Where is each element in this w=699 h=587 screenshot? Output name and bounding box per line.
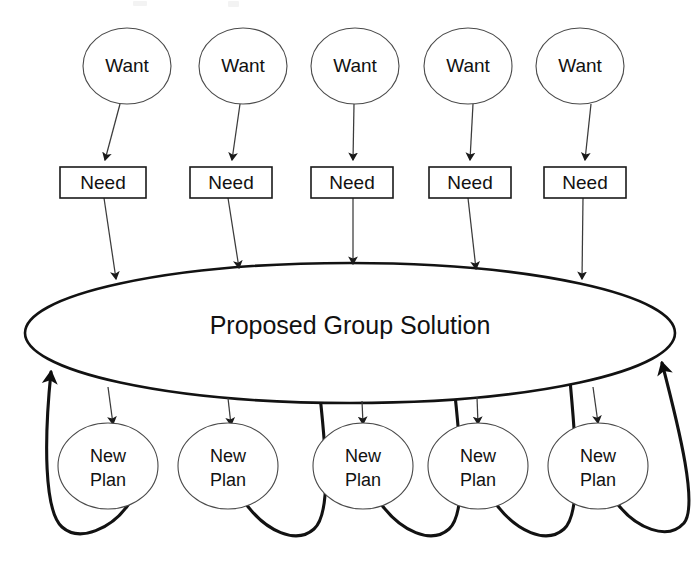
need-node-3[interactable]: Need [311, 167, 393, 198]
need-node-4[interactable]: Need [429, 167, 511, 198]
new-plan-label-3-line1: New [345, 446, 382, 466]
edge-want-need-4 [470, 104, 473, 160]
new-plan-label-1-line1: New [90, 446, 127, 466]
need-label-4: Need [447, 172, 492, 193]
new-plan-label-5-line2: Plan [580, 470, 616, 490]
want-node-3[interactable]: Want [311, 28, 399, 104]
edge-want-need-3 [353, 104, 354, 160]
edge-solution-plan-3 [362, 401, 363, 424]
need-label-5: Need [562, 172, 607, 193]
new-plan-label-4-line2: Plan [460, 470, 496, 490]
need-node-2[interactable]: Need [190, 167, 272, 198]
edge-solution-plan-5 [593, 387, 598, 423]
new-plan-ellipse-1 [58, 423, 158, 509]
edge-want-need-5 [585, 104, 591, 160]
new-plan-node-4[interactable]: New Plan [428, 423, 528, 509]
new-plan-ellipse-4 [428, 423, 528, 509]
want-label-5: Want [558, 55, 602, 76]
new-plan-label-4-line1: New [460, 446, 497, 466]
new-plan-node-2[interactable]: New Plan [178, 423, 278, 509]
new-plan-node-3[interactable]: New Plan [313, 423, 413, 509]
new-plan-node-5[interactable]: New Plan [548, 423, 648, 509]
edge-solution-plan-2 [228, 398, 231, 425]
want-nodes-group: Want Want Want Want Want [83, 28, 624, 104]
want-to-need-edges [105, 104, 591, 160]
new-plan-label-2-line2: Plan [210, 470, 246, 490]
edge-want-need-1 [105, 104, 120, 160]
scan-artifact-left [133, 1, 147, 6]
new-plan-node-1[interactable]: New Plan [58, 423, 158, 509]
new-plan-ellipse-3 [313, 423, 413, 509]
proposed-group-solution-label: Proposed Group Solution [210, 311, 491, 339]
edge-want-need-2 [232, 104, 240, 160]
edge-need-solution-1 [104, 198, 116, 279]
diagram-canvas: Proposed Group Solution [0, 0, 699, 587]
diagram-root: Proposed Group Solution [0, 0, 699, 587]
want-node-2[interactable]: Want [199, 28, 287, 104]
proposed-group-solution-node[interactable]: Proposed Group Solution [25, 263, 675, 403]
need-node-1[interactable]: Need [60, 167, 146, 198]
want-label-1: Want [105, 55, 149, 76]
need-node-5[interactable]: Need [544, 167, 626, 198]
need-nodes-group: Need Need Need Need Need [60, 167, 626, 198]
edge-need-solution-2 [228, 198, 239, 268]
need-label-1: Need [80, 172, 125, 193]
scan-artifact-right [228, 1, 239, 7]
new-plan-ellipse-2 [178, 423, 278, 509]
new-plan-label-5-line1: New [580, 446, 617, 466]
edge-solution-plan-4 [477, 397, 478, 424]
need-label-3: Need [329, 172, 374, 193]
new-plan-nodes-group: New Plan New Plan New Plan New Plan New [58, 423, 648, 509]
new-plan-label-1-line2: Plan [90, 470, 126, 490]
new-plan-label-3-line2: Plan [345, 470, 381, 490]
edge-need-solution-4 [468, 198, 476, 269]
need-label-2: Need [208, 172, 253, 193]
edge-solution-plan-1 [108, 387, 113, 424]
want-node-5[interactable]: Want [536, 28, 624, 104]
want-label-2: Want [221, 55, 265, 76]
want-node-1[interactable]: Want [83, 28, 171, 104]
want-label-4: Want [446, 55, 490, 76]
want-label-3: Want [333, 55, 377, 76]
edge-need-solution-5 [582, 198, 583, 279]
want-node-4[interactable]: Want [424, 28, 512, 104]
new-plan-label-2-line1: New [210, 446, 247, 466]
scan-artifact-group [133, 1, 239, 7]
new-plan-ellipse-5 [548, 423, 648, 509]
